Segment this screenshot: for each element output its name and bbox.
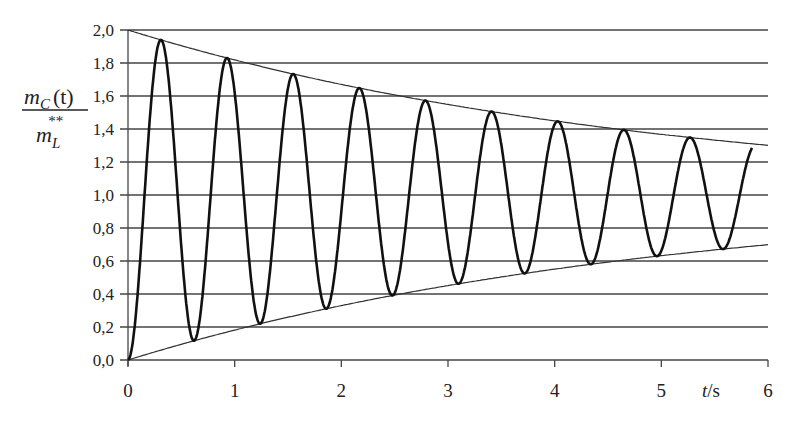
y-label-num-arg: (t) [53, 84, 74, 109]
y-tick-label: 0,6 [93, 252, 114, 271]
y-tick-label: 0,2 [93, 318, 114, 337]
x-axis-label: t/s [702, 380, 720, 401]
y-tick-labels: 0,00,20,40,60,81,01,21,41,61,82,0 [93, 21, 115, 370]
y-tick-label: 0,0 [93, 351, 114, 370]
damped-oscillation-chart: 0,00,20,40,60,81,01,21,41,61,82,0 012345… [0, 0, 790, 422]
y-tick-label: 1,8 [93, 54, 114, 73]
lower-envelope-line [128, 245, 768, 360]
y-label-numerator: mC(t) [24, 84, 74, 112]
y-tick-label: 0,8 [93, 219, 114, 238]
y-label-den-sub: L [51, 135, 60, 151]
x-tick-label: 1 [230, 380, 240, 401]
y-label-den-sup: ** [48, 113, 63, 129]
oscillation-curve [128, 40, 752, 360]
y-tick-label: 1,0 [93, 186, 114, 205]
y-label-num-m: m [24, 84, 40, 109]
y-label-denominator: mL** [36, 113, 63, 151]
x-tick-label: 3 [443, 380, 453, 401]
x-tick-label: 4 [550, 380, 560, 401]
x-tick-label: 2 [337, 380, 347, 401]
upper-envelope-line [128, 30, 768, 145]
x-tick-label: 0 [123, 380, 133, 401]
y-tick-label: 0,4 [93, 285, 115, 304]
y-tick-label: 1,4 [93, 120, 115, 139]
x-tick-label: 6 [763, 380, 773, 401]
horizontal-gridlines [120, 30, 768, 360]
x-tick-label: 5 [657, 380, 667, 401]
x-tick-labels: 0123456 [123, 380, 773, 401]
y-tick-label: 1,6 [93, 87, 114, 106]
y-tick-label: 1,2 [93, 153, 114, 172]
y-tick-label: 2,0 [93, 21, 114, 40]
x-axis-label-unit: /s [707, 380, 720, 401]
y-label-num-sub: C [40, 96, 51, 112]
